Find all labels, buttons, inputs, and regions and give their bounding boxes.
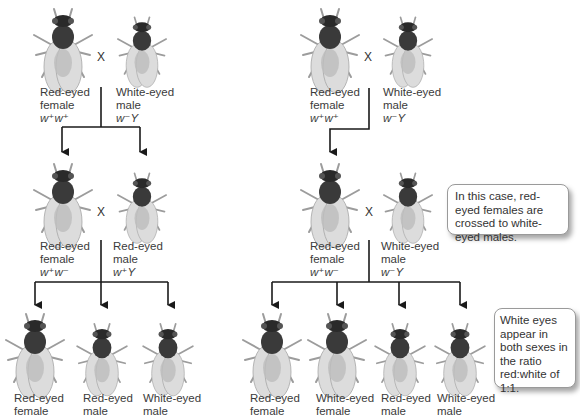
fly-icon-white-eyed-male xyxy=(378,170,438,245)
fly-icon-red-eyed-male xyxy=(112,170,172,245)
genotype: w⁺w⁺ xyxy=(310,112,360,125)
genotype: w⁻Y xyxy=(116,112,174,125)
offspring-label: White-eyedmale xyxy=(437,392,495,418)
cross-symbol: X xyxy=(364,50,372,64)
parent-female-label: Red-eyed female w⁺w⁺ xyxy=(40,86,90,125)
fly-icon-red-eyed-male xyxy=(72,320,132,398)
genotype: w⁺w⁻ xyxy=(310,266,360,279)
genotype: w⁻Y xyxy=(383,112,441,125)
backcross-female-label: Red-eyed female w⁺w⁻ xyxy=(310,240,360,279)
parent-female-label: Red-eyed female w⁺w⁺ xyxy=(310,86,360,125)
fly-icon-white-eyed-male xyxy=(138,320,198,398)
parent-male-label: White-eyed male w⁻Y xyxy=(383,86,441,125)
f2-label: Red-eyedfemale xyxy=(14,392,64,418)
fly-icon-red-eyed-male xyxy=(370,320,430,398)
genotype: w⁺w⁻ xyxy=(40,266,90,279)
cross-symbol: X xyxy=(97,50,105,64)
f2-label: Red-eyedmale xyxy=(83,392,133,418)
f1-male-label: Red-eyed male w⁺Y xyxy=(113,240,163,279)
genotype: w⁺Y xyxy=(113,266,163,279)
backcross-male-label: White-eyed male w⁻Y xyxy=(381,240,439,279)
fly-icon-white-eyed-male xyxy=(378,14,438,89)
fly-icon-red-eyed-female xyxy=(237,310,307,400)
cross-symbol: X xyxy=(97,205,105,219)
parent-male-label: White-eyed male w⁻Y xyxy=(116,86,174,125)
fly-icon-red-eyed-female xyxy=(28,160,98,250)
offspring-label: White-eyedfemale xyxy=(316,392,374,418)
fly-icon-red-eyed-female xyxy=(28,5,98,95)
fly-icon-red-eyed-female xyxy=(295,5,365,95)
fly-icon-red-eyed-female xyxy=(295,160,365,250)
fly-icon-white-eyed-male xyxy=(430,320,490,398)
cross-symbol: X xyxy=(365,205,373,219)
callout-case-note: In this case, red-eyed females are cross… xyxy=(447,184,569,235)
genotype: w⁺w⁺ xyxy=(40,112,90,125)
fly-icon-red-eyed-female xyxy=(0,310,70,400)
callout-ratio-note: White eyes appear in both sexes in the r… xyxy=(494,308,576,388)
fly-icon-white-eyed-male xyxy=(112,14,172,89)
offspring-label: Red-eyedmale xyxy=(381,392,431,418)
genotype: w⁻Y xyxy=(381,266,439,279)
fly-icon-white-eyed-female xyxy=(302,310,372,400)
f2-label: White-eyedmale xyxy=(143,392,201,418)
f1-female-label: Red-eyed female w⁺w⁻ xyxy=(40,240,90,279)
offspring-label: Red-eyedfemale xyxy=(250,392,300,418)
